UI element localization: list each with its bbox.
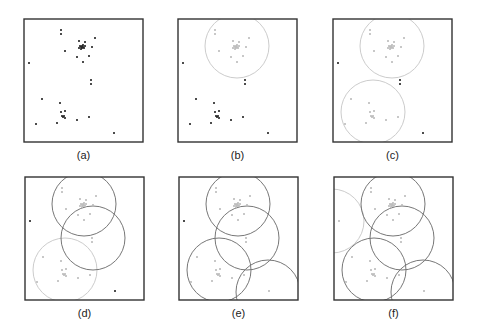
data-point — [372, 115, 374, 117]
cluster-circle — [52, 172, 116, 236]
data-point — [366, 280, 368, 282]
data-point — [400, 46, 402, 48]
data-point — [231, 277, 233, 279]
data-point — [82, 44, 84, 46]
data-point — [242, 55, 244, 57]
data-point — [235, 206, 237, 208]
cluster-circle — [206, 172, 270, 236]
data-point — [218, 117, 220, 119]
data-point — [80, 48, 82, 50]
data-point — [189, 123, 191, 125]
data-point — [77, 214, 79, 216]
panel-c: (c) — [333, 19, 477, 179]
data-point — [388, 205, 390, 207]
plot-border — [24, 19, 143, 142]
data-point — [59, 102, 61, 104]
data-point — [234, 48, 236, 50]
data-point — [76, 56, 78, 58]
data-point — [91, 237, 93, 239]
panel-e: (e) — [179, 177, 329, 335]
data-point — [386, 277, 388, 279]
data-point — [244, 83, 246, 85]
data-point — [368, 102, 370, 104]
data-point — [213, 102, 215, 104]
data-point — [423, 290, 425, 292]
plot-border — [179, 177, 298, 300]
data-point — [373, 117, 375, 119]
data-point — [230, 56, 232, 58]
data-point — [88, 55, 90, 57]
data-point — [190, 281, 192, 283]
data-point — [88, 116, 90, 118]
data-point — [80, 203, 82, 205]
data-point — [195, 98, 197, 100]
data-point — [79, 198, 81, 200]
data-point — [76, 119, 78, 121]
data-point — [85, 199, 87, 201]
data-point — [397, 116, 399, 118]
data-point — [64, 117, 66, 119]
plot-f — [334, 177, 453, 300]
data-point — [245, 46, 247, 48]
data-point — [61, 191, 63, 193]
data-point — [369, 29, 371, 31]
panel-a: (a) — [24, 19, 174, 179]
plot-b — [178, 19, 297, 142]
plot-a — [24, 19, 143, 142]
data-point — [78, 47, 80, 49]
data-point — [84, 205, 86, 207]
data-point — [89, 213, 91, 215]
data-point — [214, 33, 216, 35]
data-point — [233, 198, 235, 200]
plot-c — [333, 19, 452, 142]
data-point — [218, 273, 220, 275]
data-point — [63, 115, 65, 117]
data-point — [239, 199, 241, 201]
data-point — [370, 187, 372, 189]
data-point — [214, 29, 216, 31]
data-point — [373, 50, 375, 52]
data-point — [392, 47, 394, 49]
data-point — [351, 256, 353, 258]
data-point — [183, 220, 185, 222]
data-point — [230, 119, 232, 121]
data-point — [369, 260, 371, 262]
data-point — [246, 204, 248, 206]
data-point — [65, 208, 67, 210]
data-point — [79, 205, 81, 207]
data-point — [386, 214, 388, 216]
data-point — [237, 202, 239, 204]
data-point — [365, 122, 367, 124]
plot-border — [178, 19, 297, 142]
data-point — [64, 273, 66, 275]
data-point — [64, 110, 66, 112]
data-point — [398, 274, 400, 276]
data-point — [95, 195, 97, 197]
cluster-circle — [361, 172, 425, 236]
data-point — [57, 280, 59, 282]
data-point — [388, 45, 390, 47]
data-point — [61, 187, 63, 189]
data-point — [218, 50, 220, 52]
data-point — [94, 37, 96, 39]
data-point — [399, 79, 401, 81]
caption-f: (f) — [334, 307, 453, 319]
data-point — [81, 206, 83, 208]
data-point — [232, 40, 234, 42]
data-point — [84, 45, 86, 47]
data-point — [236, 61, 238, 63]
data-point — [210, 122, 212, 124]
data-point — [89, 274, 91, 276]
data-point — [242, 116, 244, 118]
cluster-circle — [360, 14, 424, 78]
data-point — [373, 110, 375, 112]
data-point — [404, 195, 406, 197]
data-point — [85, 203, 87, 205]
data-point — [231, 214, 233, 216]
caption-a: (a) — [24, 149, 143, 161]
data-point — [393, 41, 395, 43]
data-point — [36, 281, 38, 283]
data-point — [90, 83, 92, 85]
data-point — [60, 29, 62, 31]
data-point — [400, 241, 402, 243]
